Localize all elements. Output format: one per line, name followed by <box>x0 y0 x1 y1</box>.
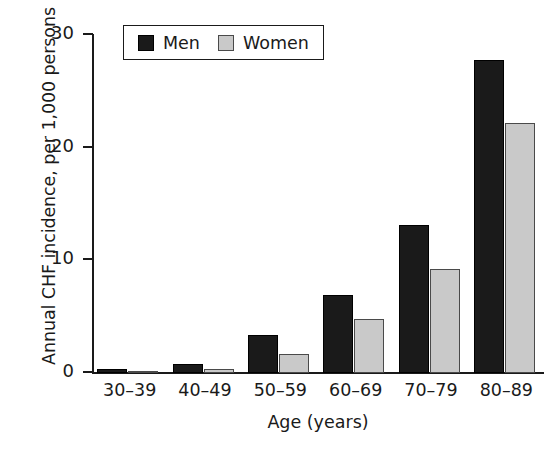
bar-group <box>323 34 384 373</box>
y-tick-label: 30 <box>0 24 74 42</box>
bar-women <box>354 319 384 373</box>
bar-men <box>474 60 504 373</box>
x-tick-label: 40–49 <box>167 380 242 400</box>
x-tick-label: 30–39 <box>92 380 167 400</box>
bar-women <box>505 123 535 373</box>
legend-label-men: Men <box>163 34 200 52</box>
y-tick-label: 20 <box>0 137 74 155</box>
bar-men <box>323 295 353 373</box>
x-tick-label: 80–89 <box>469 380 544 400</box>
y-axis-line <box>92 34 94 374</box>
bar-women <box>430 269 460 373</box>
y-tick-mark <box>83 146 93 148</box>
x-axis-title: Age (years) <box>92 412 544 432</box>
bar-men <box>97 369 127 374</box>
x-tick-label: 70–79 <box>393 380 468 400</box>
chart-legend: Men Women <box>123 25 324 60</box>
y-axis-title: Annual CHF incidence, per 1,000 persons <box>36 0 62 376</box>
bar-women <box>128 371 158 373</box>
y-tick-mark <box>83 371 93 373</box>
legend-label-women: Women <box>243 34 309 52</box>
black-square-swatch-icon <box>138 35 154 51</box>
bar-men <box>248 335 278 373</box>
legend-entry-women: Women <box>218 34 309 52</box>
x-tick-label: 50–59 <box>243 380 318 400</box>
bar-group <box>173 34 234 373</box>
y-tick-label: 10 <box>0 249 74 267</box>
bar-group <box>97 34 158 373</box>
gray-square-swatch-icon <box>218 35 234 51</box>
legend-entry-men: Men <box>138 34 200 52</box>
bar-men <box>399 225 429 373</box>
chart-figure: Annual CHF incidence, per 1,000 persons … <box>0 0 553 454</box>
bar-group <box>474 34 535 373</box>
y-tick-mark <box>83 258 93 260</box>
y-tick-mark <box>83 33 93 35</box>
bar-men <box>173 364 203 373</box>
y-tick-label: 0 <box>0 362 74 380</box>
x-tick-label: 60–69 <box>318 380 393 400</box>
bar-group <box>399 34 460 373</box>
bar-women <box>279 354 309 373</box>
caption-fragment <box>0 440 553 454</box>
bar-group <box>248 34 309 373</box>
bar-women <box>204 369 234 374</box>
